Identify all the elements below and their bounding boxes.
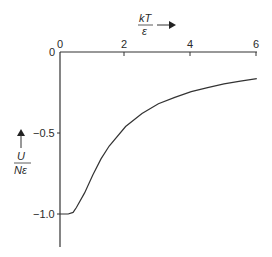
x-tick-label: 0 xyxy=(57,38,63,50)
svg-text:U: U xyxy=(17,150,25,162)
y-axis-label: U Nε xyxy=(14,129,31,176)
arrow-head-icon xyxy=(169,21,176,29)
x-tick-label: 4 xyxy=(187,38,193,50)
data-line xyxy=(60,79,257,214)
y-tick-label: −1.0 xyxy=(33,208,55,220)
y-tick-label: 0 xyxy=(49,46,55,58)
x-axis-label: kT ε xyxy=(138,12,176,37)
arrow-up-icon xyxy=(17,129,25,136)
svg-text:ε: ε xyxy=(142,25,147,37)
x-tick-label: 2 xyxy=(121,38,127,50)
y-tick-label: −0.5 xyxy=(33,127,55,139)
svg-text:Nε: Nε xyxy=(14,164,27,176)
x-tick-label: 6 xyxy=(253,38,259,50)
chart: 0 2 4 6 0 −0.5 −1.0 kT ε U Nε xyxy=(0,0,272,257)
svg-text:kT: kT xyxy=(139,12,153,24)
